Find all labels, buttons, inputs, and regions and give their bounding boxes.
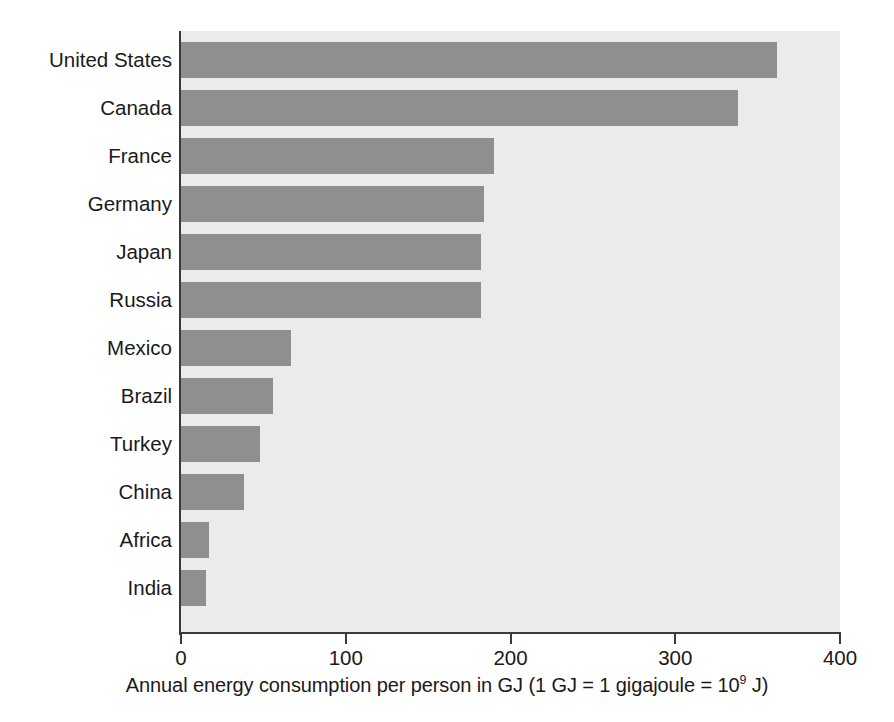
x-tick-mark: [839, 634, 841, 644]
bar: [181, 378, 273, 414]
bar-chart-figure: United StatesCanadaFranceGermanyJapanRus…: [0, 0, 894, 722]
bar: [181, 474, 244, 510]
bar: [181, 138, 494, 174]
category-label: Germany: [0, 186, 172, 222]
bar: [181, 570, 206, 606]
x-tick-mark: [510, 634, 512, 644]
x-axis-caption: Annual energy consumption per person in …: [0, 672, 894, 698]
x-tick-mark: [674, 634, 676, 644]
x-tick-mark: [180, 634, 182, 644]
bar: [181, 330, 291, 366]
category-label: Brazil: [0, 378, 172, 414]
bar: [181, 522, 209, 558]
category-label: Africa: [0, 522, 172, 558]
category-label: Canada: [0, 90, 172, 126]
bar: [181, 234, 481, 270]
category-label: United States: [0, 42, 172, 78]
x-tick-label: 100: [286, 646, 406, 670]
bar: [181, 90, 738, 126]
category-label: Turkey: [0, 426, 172, 462]
bar: [181, 282, 481, 318]
exponent: 9: [739, 673, 746, 687]
category-label: Russia: [0, 282, 172, 318]
category-label: India: [0, 570, 172, 606]
bar: [181, 42, 777, 78]
category-label: Japan: [0, 234, 172, 270]
bar: [181, 426, 260, 462]
category-label: China: [0, 474, 172, 510]
x-tick-label: 200: [451, 646, 571, 670]
category-label: France: [0, 138, 172, 174]
x-tick-label: 0: [121, 646, 241, 670]
x-tick-label: 300: [615, 646, 735, 670]
x-tick-mark: [345, 634, 347, 644]
category-label: Mexico: [0, 330, 172, 366]
x-tick-label: 400: [780, 646, 894, 670]
bar: [181, 186, 484, 222]
